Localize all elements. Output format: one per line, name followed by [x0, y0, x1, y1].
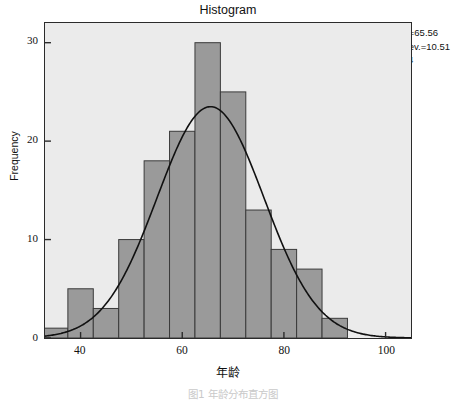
x-tick-label: 100 — [366, 344, 406, 356]
y-tick-label: 0 — [12, 331, 38, 343]
x-tick-label: 80 — [264, 344, 304, 356]
bars-group — [45, 43, 347, 338]
x-tick-label: 40 — [60, 344, 100, 356]
histogram-canvas — [45, 23, 411, 338]
plot-area — [44, 22, 412, 339]
y-tick-label: 30 — [12, 34, 38, 46]
histogram-bar — [119, 240, 144, 338]
histogram-bar — [246, 210, 271, 338]
x-axis-ticks: 406080100 — [44, 344, 412, 362]
histogram-bar — [297, 269, 322, 338]
x-tick-label: 60 — [162, 344, 202, 356]
histogram-bar — [271, 249, 296, 338]
figure-caption: 图1 年龄分布直方图 — [0, 386, 466, 401]
histogram-bar — [220, 92, 245, 338]
y-axis-label: Frequency — [8, 96, 20, 216]
x-axis-label: 年龄 — [44, 363, 412, 380]
histogram-bar — [144, 161, 169, 338]
histogram-bar — [170, 131, 195, 338]
histogram-bar — [195, 43, 220, 338]
y-tick-label: 10 — [12, 232, 38, 244]
page-title: Histogram — [44, 2, 412, 18]
